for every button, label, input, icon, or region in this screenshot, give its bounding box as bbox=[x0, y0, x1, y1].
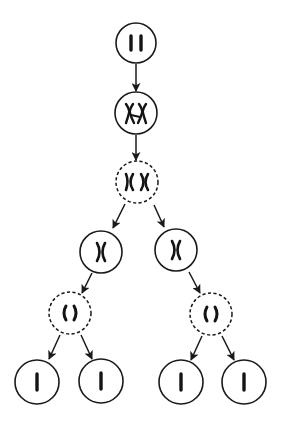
daughter-cell-left bbox=[80, 231, 122, 273]
arrow-daughter-right-to-meiosis2-right bbox=[189, 272, 200, 293]
arrow-meiosis2-left-to-gamete-1 bbox=[49, 335, 60, 359]
arrow-daughter-left-to-meiosis2-left bbox=[82, 273, 92, 293]
gamete-1 bbox=[15, 360, 59, 404]
daughter-cell-right bbox=[155, 229, 197, 271]
tetrad-cell bbox=[115, 92, 157, 134]
gamete-2 bbox=[79, 359, 123, 403]
cell-membrane bbox=[115, 92, 157, 134]
cell-membrane bbox=[155, 229, 197, 271]
parent-cell bbox=[116, 23, 156, 63]
gamete-3 bbox=[159, 360, 203, 404]
meiosis2-cell-right bbox=[190, 293, 232, 335]
arrow-meiosis2-left-to-gamete-2 bbox=[81, 335, 92, 359]
arrow-meiosis1-to-daughter-left bbox=[113, 204, 125, 228]
meiosis1-cell bbox=[116, 161, 158, 203]
gamete-4 bbox=[222, 360, 266, 404]
meiosis-diagram bbox=[0, 0, 284, 430]
cell-membrane-dashed bbox=[116, 161, 158, 203]
arrow-meiosis1-to-daughter-right bbox=[154, 205, 164, 227]
meiosis2-cell-left bbox=[49, 292, 91, 334]
arrow-meiosis2-right-to-gamete-3 bbox=[191, 336, 202, 360]
cell-membrane-dashed bbox=[190, 293, 232, 335]
cell-membrane bbox=[116, 23, 156, 63]
cell-membrane bbox=[80, 231, 122, 273]
cell-membrane-dashed bbox=[49, 292, 91, 334]
arrow-meiosis2-right-to-gamete-4 bbox=[222, 336, 234, 360]
